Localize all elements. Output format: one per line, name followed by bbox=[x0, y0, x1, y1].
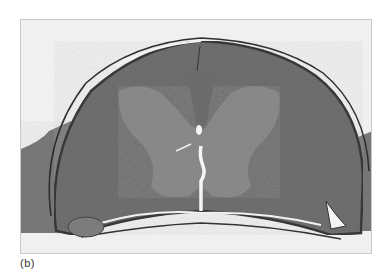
micrograph-frame bbox=[20, 19, 372, 254]
spinal-cord-micrograph bbox=[21, 20, 371, 253]
central-canal bbox=[196, 125, 202, 135]
panel-label: (b) bbox=[20, 257, 35, 269]
ventral-rootlet-left bbox=[68, 217, 104, 237]
